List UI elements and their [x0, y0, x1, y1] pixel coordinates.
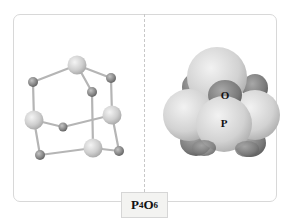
formula-label: P4O6 [121, 192, 168, 218]
oxygen-atom [59, 123, 68, 132]
oxygen-atom [106, 73, 116, 83]
phosphorus-atom [25, 111, 44, 130]
formula-element-o: O [143, 197, 153, 213]
phosphorus-atom [84, 139, 103, 158]
oxygen-atom [87, 87, 97, 97]
oxygen-label: O [221, 89, 230, 101]
molecule-figures: O P [0, 0, 292, 222]
formula-subscript-6: 6 [154, 200, 159, 210]
oxygen-atom [28, 77, 38, 87]
oxygen-atom [114, 146, 124, 156]
atoms [25, 56, 125, 161]
phosphorus-atom [68, 56, 87, 75]
oxygen-atom [35, 150, 45, 160]
space-filling-model: O P [163, 47, 280, 157]
formula-element-p: P [131, 197, 139, 213]
phosphorus-label: P [221, 117, 228, 129]
phosphorus-atom [103, 106, 122, 125]
ball-and-stick-model [25, 56, 125, 161]
